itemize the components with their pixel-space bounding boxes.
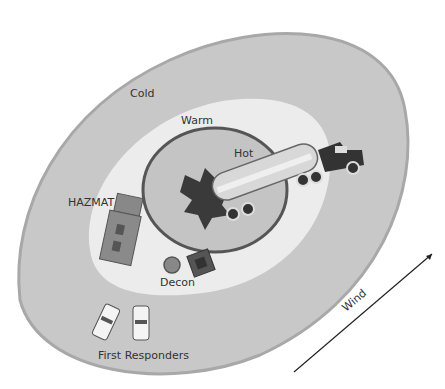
first-responders-label: First Responders [98,349,189,362]
hazmat-label: HAZMAT [68,196,114,209]
cold-label: Cold [130,87,154,100]
decon-label: Decon [160,276,195,289]
hazmat-zone-diagram: Cold Warm Hot HAZMAT Decon First Respond… [0,0,445,389]
decon-pool-icon [164,257,180,273]
first-responder-car-icon [133,306,149,340]
hot-label: Hot [234,147,254,160]
warm-label: Warm [181,114,213,127]
